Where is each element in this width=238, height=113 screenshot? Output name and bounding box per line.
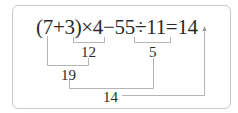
step-label-19: 19 [61, 68, 76, 83]
bracket-14-intermediate [70, 58, 154, 89]
arrow-up-icon [202, 26, 206, 31]
bracket-12 [74, 37, 105, 43]
step-label-14: 14 [103, 90, 118, 105]
bracket-5 [135, 37, 171, 43]
step-label-5: 5 [149, 45, 157, 60]
calculation-connectors [0, 0, 238, 113]
step-label-12: 12 [81, 45, 96, 60]
